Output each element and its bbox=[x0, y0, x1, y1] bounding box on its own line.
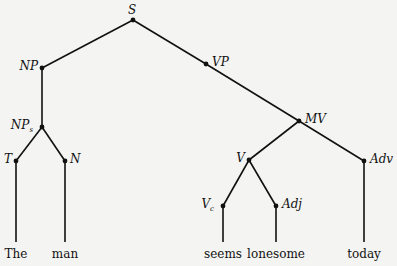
node-label-n: N bbox=[69, 152, 81, 166]
leaf-word-man: man bbox=[52, 247, 79, 261]
edge-s-np bbox=[42, 20, 133, 68]
edge-nps-n bbox=[42, 127, 65, 161]
node-label-vc: Vc bbox=[201, 197, 214, 213]
node-dot-n bbox=[63, 159, 68, 164]
node-dot-s bbox=[131, 18, 136, 23]
node-label-nps: NPs bbox=[10, 118, 34, 134]
edge-vp-mv bbox=[206, 64, 299, 121]
edge-v-adj bbox=[249, 160, 276, 206]
edge-mv-adv bbox=[299, 121, 364, 161]
node-dot-v bbox=[247, 158, 252, 163]
node-label-adj: Adj bbox=[281, 197, 302, 211]
node-dot-nps bbox=[40, 125, 45, 130]
leaf-word-the: The bbox=[5, 247, 28, 261]
node-dot-adj bbox=[274, 204, 279, 209]
leaf-word-today: today bbox=[347, 247, 381, 261]
leaf-word-seems: seems bbox=[204, 247, 242, 261]
node-dot-mv bbox=[297, 119, 302, 124]
leaf-lines bbox=[16, 161, 364, 242]
edge-s-vp bbox=[133, 20, 206, 64]
syntax-tree-diagram: SNPVPNPsTNMVVAdvVcAdj Themanseemslonesom… bbox=[0, 0, 397, 266]
node-dot-adv bbox=[362, 159, 367, 164]
edge-mv-v bbox=[249, 121, 299, 160]
node-labels: SNPVPNPsTNMVVAdvVcAdj bbox=[4, 3, 393, 213]
node-label-v: V bbox=[236, 151, 246, 165]
node-dot-vc bbox=[221, 204, 226, 209]
node-label-adv: Adv bbox=[369, 152, 393, 166]
leaf-word-lonesome: lonesome bbox=[247, 247, 305, 261]
node-dot-vp bbox=[204, 62, 209, 67]
node-label-t: T bbox=[4, 152, 13, 166]
node-label-mv: MV bbox=[304, 112, 327, 126]
node-dot-np bbox=[40, 66, 45, 71]
node-label-s: S bbox=[128, 3, 136, 17]
leaf-words: Themanseemslonesometoday bbox=[5, 247, 381, 261]
edge-v-vc bbox=[223, 160, 249, 206]
node-label-vp: VP bbox=[212, 55, 230, 69]
node-label-np: NP bbox=[18, 59, 39, 73]
node-dot-t bbox=[14, 159, 19, 164]
